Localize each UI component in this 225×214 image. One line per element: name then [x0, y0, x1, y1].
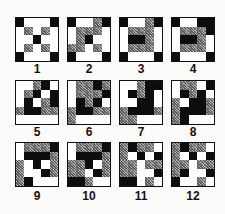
grid-cell [206, 115, 214, 124]
grid-cell [206, 177, 214, 186]
grid-cell [120, 160, 128, 169]
grid-cell [50, 160, 58, 169]
grid-cell [76, 107, 84, 116]
grid-cell [137, 35, 145, 44]
pattern-label: 9 [15, 190, 59, 202]
grid-cell [128, 160, 136, 169]
pattern-grid-11 [119, 142, 163, 187]
grid-cell [85, 177, 93, 186]
grid-cell [93, 90, 101, 99]
grid-cell [16, 177, 24, 186]
grid-cell [102, 143, 110, 152]
grid-cell [41, 18, 49, 27]
grid-cell [16, 107, 24, 116]
pattern-label: 10 [67, 190, 111, 202]
grid-cell [145, 35, 153, 44]
pattern-label: 11 [119, 190, 163, 202]
grid-cell [172, 27, 180, 36]
grid-cell [206, 169, 214, 178]
grid-cell [102, 107, 110, 116]
grid-cell [76, 27, 84, 36]
grid-cell [154, 98, 162, 107]
grid-cell [102, 115, 110, 124]
grid-cell [206, 52, 214, 61]
grid-cell [16, 18, 24, 27]
grid-cell [172, 152, 180, 161]
grid-cell [85, 107, 93, 116]
grid-cell [50, 169, 58, 178]
grid-cell [180, 27, 188, 36]
grid-cell [197, 18, 205, 27]
grid-cell [24, 81, 32, 90]
grid-cell [120, 152, 128, 161]
pattern-grid-1 [15, 17, 59, 62]
grid-cell [85, 18, 93, 27]
grid-cell [76, 115, 84, 124]
grid-cell [102, 27, 110, 36]
grid-cell [16, 152, 24, 161]
grid-cell [206, 27, 214, 36]
grid-cell [189, 81, 197, 90]
grid-cell [172, 177, 180, 186]
grid-cell [154, 115, 162, 124]
grid-cell [33, 115, 41, 124]
grid-cell [50, 35, 58, 44]
pattern-label: 12 [171, 190, 215, 202]
grid-cell [24, 152, 32, 161]
grid-cell [189, 177, 197, 186]
grid-cell [197, 143, 205, 152]
grid-cell [189, 18, 197, 27]
grid-cell [24, 18, 32, 27]
grid-cell [41, 152, 49, 161]
grid-cell [154, 152, 162, 161]
grid-cell [93, 177, 101, 186]
grid-cell [137, 169, 145, 178]
grid-cell [137, 52, 145, 61]
grid-cell [145, 143, 153, 152]
grid-cell [180, 44, 188, 53]
grid-cell [41, 107, 49, 116]
grid-cell [154, 107, 162, 116]
grid-cell [120, 81, 128, 90]
grid-cell [68, 143, 76, 152]
grid-cell [85, 81, 93, 90]
grid-cell [145, 44, 153, 53]
grid-cell [154, 52, 162, 61]
grid-cell [189, 169, 197, 178]
grid-cell [24, 27, 32, 36]
grid-cell [154, 35, 162, 44]
grid-cell [120, 107, 128, 116]
grid-cell [137, 115, 145, 124]
pattern-grid-7 [119, 80, 163, 125]
pattern-label: 6 [67, 126, 111, 138]
pattern-grid-3 [119, 17, 163, 62]
grid-cell [180, 18, 188, 27]
grid-cell [180, 169, 188, 178]
grid-cell [102, 81, 110, 90]
grid-cell [102, 98, 110, 107]
grid-cell [137, 81, 145, 90]
grid-cell [41, 177, 49, 186]
grid-cell [189, 35, 197, 44]
grid-cell [128, 27, 136, 36]
grid-cell [128, 143, 136, 152]
grid-cell [33, 44, 41, 53]
grid-cell [128, 98, 136, 107]
grid-cell [68, 52, 76, 61]
grid-cell [93, 35, 101, 44]
grid-cell [102, 152, 110, 161]
grid-cell [120, 52, 128, 61]
grid-cell [16, 160, 24, 169]
grid-cell [120, 27, 128, 36]
grid-cell [180, 81, 188, 90]
grid-cell [172, 115, 180, 124]
grid-cell [41, 35, 49, 44]
grid-cell [189, 98, 197, 107]
grid-cell [24, 90, 32, 99]
grid-cell [137, 98, 145, 107]
grid-cell [128, 90, 136, 99]
grid-cell [102, 90, 110, 99]
grid-cell [120, 18, 128, 27]
grid-cell [41, 98, 49, 107]
grid-cell [41, 44, 49, 53]
